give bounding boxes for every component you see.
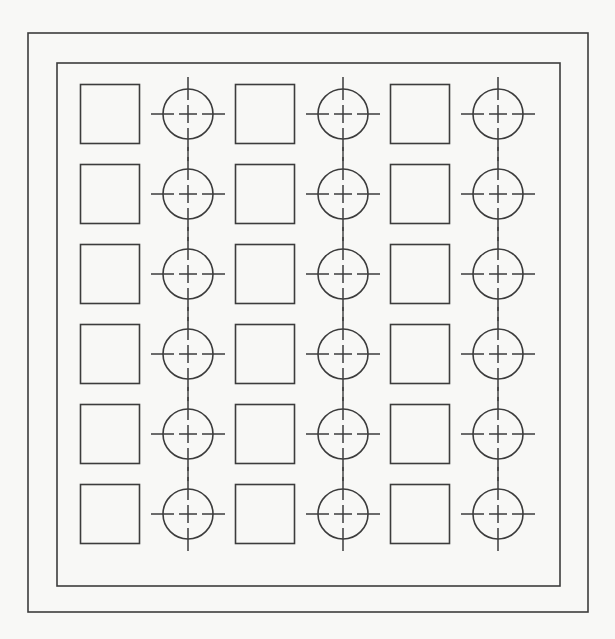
grid-cell-square-r3c0 <box>81 325 140 384</box>
grid-cell-square-r4c4 <box>391 405 450 464</box>
square-outline <box>81 165 140 224</box>
square-outline <box>236 165 295 224</box>
grid-cell-circle-r4c5 <box>461 397 535 471</box>
grid-cell-circle-r2c1 <box>151 237 225 311</box>
square-outline <box>236 245 295 304</box>
grid-cell-circle-r3c5 <box>461 317 535 391</box>
square-outline <box>81 245 140 304</box>
square-outline <box>81 405 140 464</box>
grid-cell-square-r5c2 <box>236 485 295 544</box>
grid-cell-circle-r3c3 <box>306 317 380 391</box>
grid-cell-circle-r3c1 <box>151 317 225 391</box>
grid-cell-square-r1c2 <box>236 165 295 224</box>
square-outline <box>391 245 450 304</box>
grid-cell-circle-r0c1 <box>151 77 225 151</box>
frame-outer-rect <box>28 33 588 612</box>
square-outline <box>236 325 295 384</box>
square-outline <box>391 405 450 464</box>
grid-cell-circle-r1c5 <box>461 157 535 231</box>
shape-grid <box>81 77 536 551</box>
grid-cell-square-r4c0 <box>81 405 140 464</box>
grid-cell-square-r1c4 <box>391 165 450 224</box>
grid-cell-circle-r2c5 <box>461 237 535 311</box>
grid-cell-circle-r2c3 <box>306 237 380 311</box>
grid-cell-square-r5c0 <box>81 485 140 544</box>
grid-cell-circle-r1c1 <box>151 157 225 231</box>
square-outline <box>391 325 450 384</box>
square-outline <box>81 85 140 144</box>
square-outline <box>236 405 295 464</box>
grid-cell-circle-r0c5 <box>461 77 535 151</box>
grid-cell-circle-r4c3 <box>306 397 380 471</box>
grid-cell-square-r0c2 <box>236 85 295 144</box>
grid-cell-circle-r4c1 <box>151 397 225 471</box>
drawing-canvas <box>0 0 615 639</box>
grid-cell-square-r4c2 <box>236 405 295 464</box>
grid-cell-square-r3c2 <box>236 325 295 384</box>
grid-cell-circle-r1c3 <box>306 157 380 231</box>
grid-cell-square-r3c4 <box>391 325 450 384</box>
grid-cell-square-r2c2 <box>236 245 295 304</box>
grid-cell-square-r1c0 <box>81 165 140 224</box>
border-frame <box>28 33 588 612</box>
grid-cell-square-r2c4 <box>391 245 450 304</box>
square-outline <box>391 165 450 224</box>
square-outline <box>81 485 140 544</box>
square-outline <box>391 485 450 544</box>
grid-cell-square-r2c0 <box>81 245 140 304</box>
grid-cell-square-r0c4 <box>391 85 450 144</box>
drawing-svg <box>0 0 615 639</box>
grid-cell-circle-r5c3 <box>306 477 380 551</box>
square-outline <box>236 485 295 544</box>
grid-cell-circle-r0c3 <box>306 77 380 151</box>
grid-cell-circle-r5c5 <box>461 477 535 551</box>
grid-cell-circle-r5c1 <box>151 477 225 551</box>
square-outline <box>391 85 450 144</box>
grid-cell-square-r5c4 <box>391 485 450 544</box>
square-outline <box>81 325 140 384</box>
grid-cell-square-r0c0 <box>81 85 140 144</box>
square-outline <box>236 85 295 144</box>
